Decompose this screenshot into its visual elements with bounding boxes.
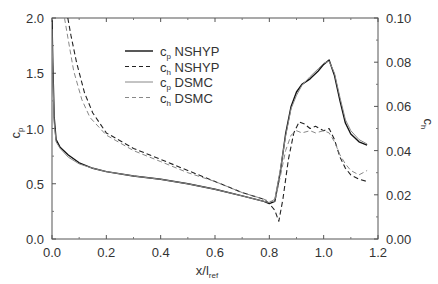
y-right-axis-ticks: 0.000.020.040.060.080.10 (374, 11, 411, 247)
y-right-tick-label: 0.04 (386, 144, 411, 159)
y-right-axis-label: ch (419, 119, 436, 130)
x-tick-label: 0.0 (43, 245, 61, 260)
y-left-tick-label: 0.5 (26, 177, 44, 192)
x-tick-label: 0.2 (97, 245, 115, 260)
y-left-tick-label: 1.0 (26, 122, 44, 137)
y-right-tick-label: 0.06 (386, 99, 411, 114)
y-left-axis-ticks: 0.00.51.01.52.0 (26, 11, 56, 247)
x-axis-label: x/lref (196, 263, 219, 280)
y-left-tick-label: 0.0 (26, 232, 44, 247)
legend-label: cp NSHYP (160, 44, 219, 61)
y-right-tick-label: 0.10 (386, 11, 411, 26)
legend: cp NSHYPch NSHYPcp DSMCch DSMC (125, 44, 219, 108)
y-left-tick-label: 2.0 (26, 11, 44, 26)
legend-label: cp DSMC (160, 75, 213, 92)
y-right-tick-label: 0.08 (386, 55, 411, 70)
y-right-tick-label: 0.02 (386, 188, 411, 203)
y-left-tick-label: 1.5 (26, 66, 44, 81)
x-tick-label: 0.6 (206, 245, 224, 260)
legend-label: ch NSHYP (160, 60, 219, 77)
chart: 0.00.20.40.60.81.01.2 0.00.51.01.52.0 0.… (0, 0, 438, 284)
y-left-axis-label: cp (8, 127, 25, 139)
legend-label: ch DSMC (160, 91, 213, 108)
y-right-tick-label: 0.00 (386, 232, 411, 247)
x-tick-label: 0.4 (152, 245, 170, 260)
x-tick-label: 0.8 (260, 245, 278, 260)
x-tick-label: 1.2 (369, 245, 387, 260)
x-tick-label: 1.0 (315, 245, 333, 260)
